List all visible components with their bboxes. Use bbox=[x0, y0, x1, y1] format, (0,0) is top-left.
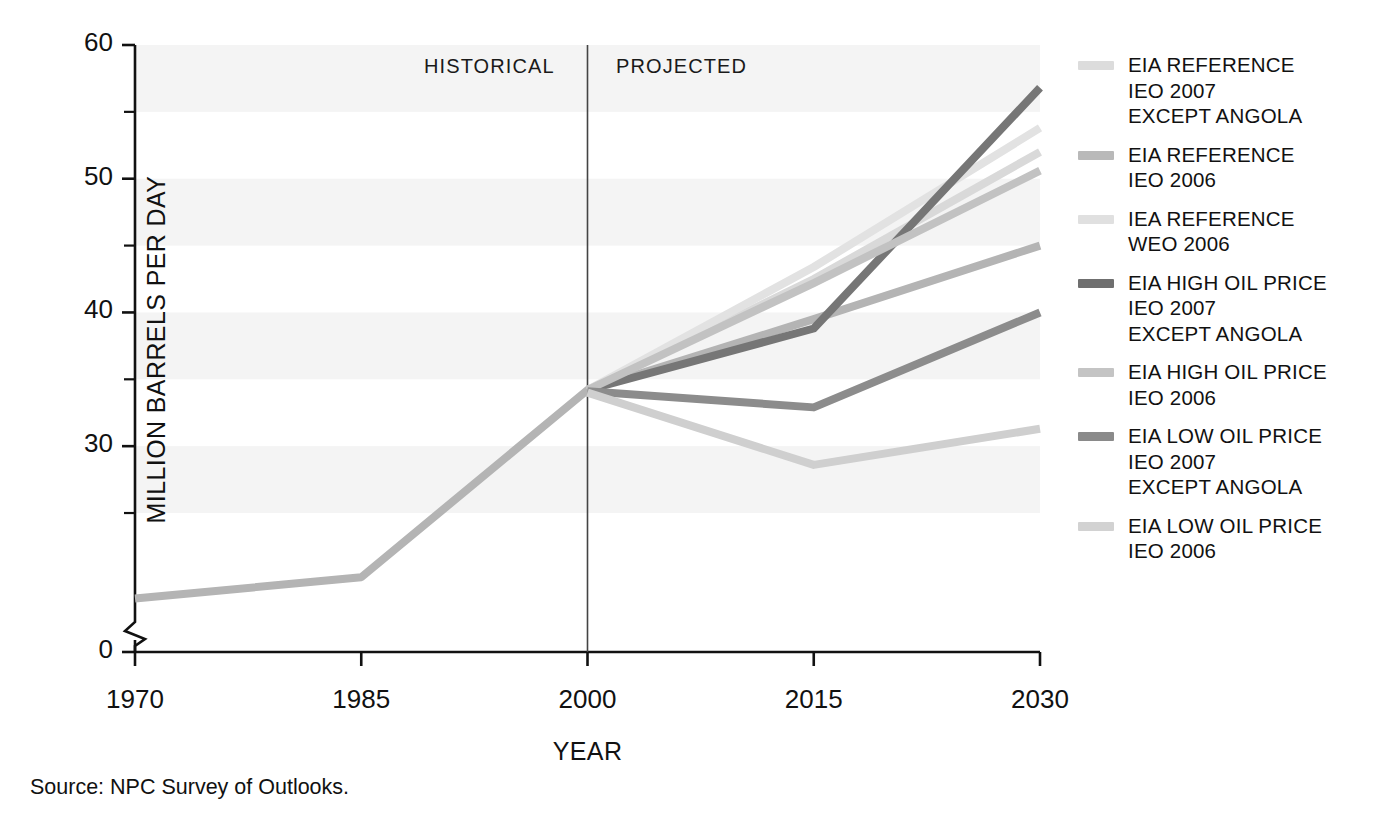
legend-swatch-icon bbox=[1078, 432, 1114, 441]
y-tick-label-50: 50 bbox=[53, 161, 113, 192]
y-tick-label-40: 40 bbox=[53, 294, 113, 325]
legend-swatch-icon bbox=[1078, 279, 1114, 288]
x-axis-title: YEAR bbox=[135, 737, 1040, 766]
legend-item: EIA REFERENCEIEO 2006 bbox=[1078, 142, 1378, 193]
projected-label: PROJECTED bbox=[616, 55, 747, 78]
legend-label-line: EXCEPT ANGOLA bbox=[1128, 103, 1302, 129]
x-tick-label-2000: 2000 bbox=[528, 684, 648, 715]
legend-swatch-icon bbox=[1078, 215, 1114, 224]
legend-label-line: IEA REFERENCE bbox=[1128, 206, 1295, 232]
chart-legend: EIA REFERENCEIEO 2007EXCEPT ANGOLAEIA RE… bbox=[1078, 52, 1378, 577]
legend-swatch-icon bbox=[1078, 151, 1114, 160]
legend-label-line: EIA LOW OIL PRICE bbox=[1128, 423, 1322, 449]
y-axis-title: MILLION BARRELS PER DAY bbox=[142, 40, 171, 660]
legend-label: EIA REFERENCEIEO 2007EXCEPT ANGOLA bbox=[1128, 52, 1302, 129]
legend-label: EIA LOW OIL PRICEIEO 2007EXCEPT ANGOLA bbox=[1128, 423, 1322, 500]
legend-label: EIA HIGH OIL PRICEIEO 2007EXCEPT ANGOLA bbox=[1128, 270, 1327, 347]
x-tick-label-1970: 1970 bbox=[75, 684, 195, 715]
chart-page: MILLION BARRELS PER DAY YEAR 605040300 1… bbox=[0, 0, 1389, 823]
legend-swatch-icon bbox=[1078, 368, 1114, 377]
legend-label-line: WEO 2006 bbox=[1128, 231, 1295, 257]
source-note: Source: NPC Survey of Outlooks. bbox=[30, 775, 349, 800]
legend-swatch-icon bbox=[1078, 522, 1114, 531]
y-tick-label-0: 0 bbox=[53, 634, 113, 665]
legend-item: IEA REFERENCEWEO 2006 bbox=[1078, 206, 1378, 257]
legend-item: EIA REFERENCEIEO 2007EXCEPT ANGOLA bbox=[1078, 52, 1378, 129]
legend-swatch-icon bbox=[1078, 61, 1114, 70]
legend-label: EIA REFERENCEIEO 2006 bbox=[1128, 142, 1295, 193]
legend-label-line: IEO 2007 bbox=[1128, 449, 1322, 475]
legend-label-line: IEO 2007 bbox=[1128, 78, 1302, 104]
legend-label: EIA HIGH OIL PRICEIEO 2006 bbox=[1128, 359, 1327, 410]
legend-label-line: EIA HIGH OIL PRICE bbox=[1128, 270, 1327, 296]
legend-label-line: IEO 2006 bbox=[1128, 167, 1295, 193]
legend-label-line: IEO 2007 bbox=[1128, 295, 1327, 321]
legend-label-line: EIA REFERENCE bbox=[1128, 142, 1295, 168]
legend-label-line: EXCEPT ANGOLA bbox=[1128, 321, 1327, 347]
legend-item: EIA LOW OIL PRICEIEO 2007EXCEPT ANGOLA bbox=[1078, 423, 1378, 500]
legend-label: EIA LOW OIL PRICEIEO 2006 bbox=[1128, 513, 1322, 564]
y-tick-label-30: 30 bbox=[53, 428, 113, 459]
x-tick-label-1985: 1985 bbox=[301, 684, 421, 715]
legend-item: EIA HIGH OIL PRICEIEO 2006 bbox=[1078, 359, 1378, 410]
x-tick-label-2015: 2015 bbox=[754, 684, 874, 715]
legend-label-line: IEO 2006 bbox=[1128, 538, 1322, 564]
legend-label: IEA REFERENCEWEO 2006 bbox=[1128, 206, 1295, 257]
legend-label-line: IEO 2006 bbox=[1128, 385, 1327, 411]
legend-item: EIA HIGH OIL PRICEIEO 2007EXCEPT ANGOLA bbox=[1078, 270, 1378, 347]
legend-label-line: EIA REFERENCE bbox=[1128, 52, 1302, 78]
x-tick-label-2030: 2030 bbox=[980, 684, 1100, 715]
legend-label-line: EXCEPT ANGOLA bbox=[1128, 474, 1322, 500]
legend-label-line: EIA HIGH OIL PRICE bbox=[1128, 359, 1327, 385]
legend-item: EIA LOW OIL PRICEIEO 2006 bbox=[1078, 513, 1378, 564]
historical-label: HISTORICAL bbox=[424, 55, 555, 78]
plot-area: MILLION BARRELS PER DAY bbox=[135, 45, 1040, 652]
y-tick-label-60: 60 bbox=[53, 27, 113, 58]
legend-label-line: EIA LOW OIL PRICE bbox=[1128, 513, 1322, 539]
